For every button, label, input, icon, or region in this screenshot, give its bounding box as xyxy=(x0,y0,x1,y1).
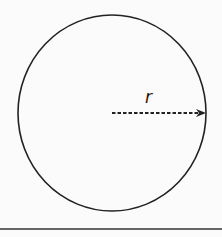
circle-radius-diagram: r xyxy=(0,0,222,237)
radius-label: r xyxy=(145,87,153,107)
